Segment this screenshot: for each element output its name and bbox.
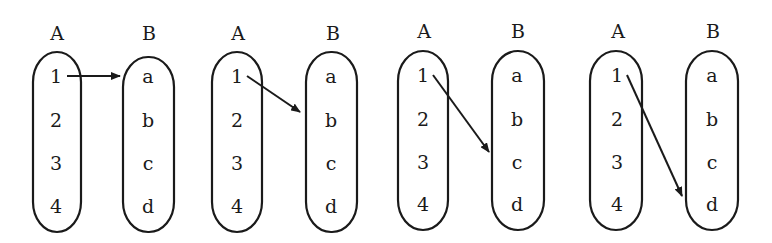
- element-b-a: a: [325, 65, 336, 87]
- element-b-c: c: [707, 151, 718, 173]
- set-a-label: A: [230, 22, 245, 44]
- element-b-b: b: [325, 109, 337, 131]
- element-b-d: d: [142, 195, 154, 217]
- panel-4: A B 1 2 3 4 a b c d: [590, 20, 738, 230]
- mapping-arrow-1-to-c: [433, 75, 489, 152]
- set-b-label: B: [142, 22, 156, 44]
- set-b-label: B: [706, 20, 720, 42]
- element-a-4: 4: [611, 193, 623, 215]
- element-a-3: 3: [417, 151, 429, 173]
- element-b-a: a: [706, 64, 717, 86]
- element-a-1: 1: [50, 65, 62, 87]
- element-a-4: 4: [231, 195, 243, 217]
- set-a-label: A: [610, 20, 625, 42]
- element-a-1: 1: [417, 64, 429, 86]
- element-a-4: 4: [417, 193, 429, 215]
- panel-2: A B 1 2 3 4 a b c d: [212, 22, 357, 232]
- element-b-a: a: [142, 65, 153, 87]
- panel-3: A B 1 2 3 4 a b c d: [398, 20, 544, 230]
- element-a-2: 2: [611, 108, 623, 130]
- element-a-3: 3: [611, 151, 623, 173]
- element-a-2: 2: [417, 108, 429, 130]
- element-b-c: c: [512, 151, 523, 173]
- element-b-d: d: [325, 195, 337, 217]
- set-b-label: B: [326, 22, 340, 44]
- panel-1: A B 1 2 3 4 a b c d: [33, 22, 174, 232]
- element-a-3: 3: [50, 152, 62, 174]
- element-b-c: c: [143, 152, 154, 174]
- element-b-b: b: [706, 108, 718, 130]
- mapping-arrow-1-to-b: [247, 76, 300, 112]
- set-b-label: B: [511, 20, 525, 42]
- element-b-b: b: [511, 108, 523, 130]
- element-a-1: 1: [611, 64, 623, 86]
- element-a-4: 4: [50, 195, 62, 217]
- element-a-2: 2: [231, 109, 243, 131]
- element-b-d: d: [511, 193, 523, 215]
- element-a-1: 1: [231, 65, 243, 87]
- element-b-d: d: [706, 193, 718, 215]
- mapping-diagram: A B 1 2 3 4 a b c d A B 1 2 3 4 a b c d …: [0, 0, 772, 243]
- element-a-3: 3: [231, 152, 243, 174]
- element-b-a: a: [511, 64, 522, 86]
- set-a-label: A: [49, 22, 64, 44]
- element-b-b: b: [142, 109, 154, 131]
- element-a-2: 2: [50, 109, 62, 131]
- element-b-c: c: [326, 152, 337, 174]
- mapping-arrow-1-to-d: [627, 75, 682, 196]
- set-a-label: A: [416, 20, 431, 42]
